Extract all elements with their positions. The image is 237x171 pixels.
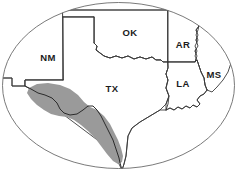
state-label-texas: TX <box>106 83 119 94</box>
state-label-mississippi: MS <box>206 69 221 80</box>
state-label-new-mexico: NM <box>40 52 56 63</box>
state-shape-arkansas <box>168 10 199 62</box>
state-label-arkansas: AR <box>176 39 191 50</box>
state-label-louisiana: LA <box>176 78 189 89</box>
state-shape-new-mexico <box>2 10 63 86</box>
map-svg: NM OK TX AR LA MS <box>0 0 237 171</box>
state-label-oklahoma: OK <box>122 27 137 38</box>
map-figure: NM OK TX AR LA MS <box>0 0 237 171</box>
